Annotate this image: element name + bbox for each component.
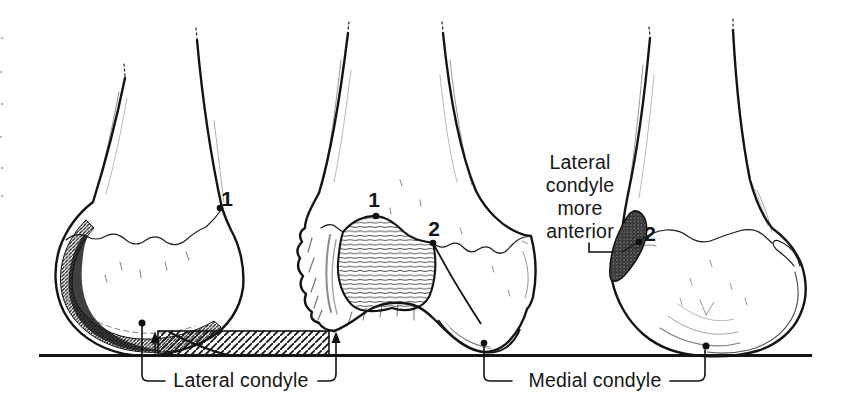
texture [105, 252, 189, 282]
figure-femoral-condyles: 1 1 2 2 Lateral condyle Medial condyle L… [0, 0, 843, 413]
lateral-epicondyle-edge [297, 193, 334, 331]
label-lateral-condyle: Lateral condyle [173, 369, 308, 391]
shaft-tip-sketch [124, 28, 197, 76]
label-line-anterior: anterior [546, 220, 614, 242]
marker-2-anterior-view: 2 [428, 217, 440, 240]
lateral-view-shaft-right-edge [197, 40, 222, 208]
point-2-dot-anterior-view [430, 240, 437, 247]
anterior-view-shaft-left-edge [319, 33, 348, 193]
label-line-lateral: Lateral [549, 151, 610, 173]
marker-1-lateral-view: 1 [221, 187, 233, 210]
up-arrow-right-head [332, 332, 341, 344]
texture [678, 304, 734, 321]
shaft-tip-sketch [348, 22, 443, 31]
point-1-dot-anterior-view [373, 213, 380, 220]
texture [660, 328, 740, 346]
label-line-condyle: condyle [546, 174, 615, 196]
marker-1-anterior-view: 1 [368, 188, 380, 211]
texture [332, 240, 337, 314]
epiphyseal-line-left [321, 225, 343, 232]
texture [334, 70, 351, 182]
point-2-dot-medial-view [636, 239, 643, 246]
texture [748, 175, 768, 226]
texture [440, 75, 457, 182]
condyle-inner-rim [707, 272, 798, 353]
medial-view-outline-right [704, 30, 806, 356]
epiphyseal-line-anterior-view [433, 237, 531, 254]
texture [639, 75, 654, 198]
anatomical-illustration: 1 1 2 2 Lateral condyle Medial condyle L… [0, 0, 843, 413]
label-lateral-condyle-more-anterior: Lateral condyle more anterior [546, 151, 615, 242]
trochlea-condyle-boundary [433, 243, 481, 324]
femur-lateral-view-drawing [55, 28, 243, 356]
femur-anterior-view-drawing [297, 22, 535, 353]
shaft-tip-sketch [649, 19, 733, 36]
label-line-more: more [557, 197, 602, 219]
texture [326, 235, 331, 312]
patellar-surface [338, 216, 435, 311]
marker-2-medial-view: 2 [644, 222, 656, 245]
texture [308, 238, 322, 320]
femur-medial-view-drawing [610, 19, 806, 356]
texture [680, 260, 747, 315]
leader-lateral-more-anterior [589, 243, 614, 252]
texture [668, 316, 738, 334]
label-medial-condyle: Medial condyle [529, 369, 662, 391]
texture [523, 252, 528, 298]
medial-view-condyle-left-edge [612, 280, 704, 356]
medial-condyle-contact-dot-medial-view [703, 343, 710, 350]
anterior-view-shaft-right-edge [443, 33, 535, 309]
texture [628, 65, 643, 195]
